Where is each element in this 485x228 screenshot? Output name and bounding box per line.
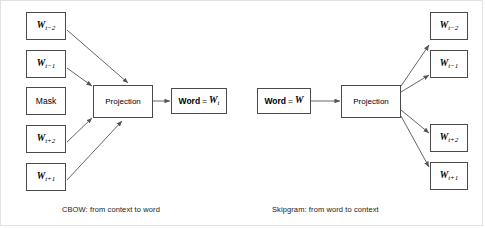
cbow-input-label-1: W xyxy=(37,21,45,31)
arrow-skip-out-4 xyxy=(401,116,429,167)
skipgram-output-label-2: W xyxy=(440,59,448,69)
arrow-skip-out-3 xyxy=(401,110,429,133)
cbow-input-box-5[interactable]: Wt+1 xyxy=(26,163,66,191)
skipgram-input-prefix: Word xyxy=(265,97,287,106)
cbow-input-sub-4: t+2 xyxy=(45,138,55,145)
skipgram-projection-label: Projection xyxy=(353,98,389,106)
skipgram-caption: Skipgram: from word to context xyxy=(272,205,379,214)
cbow-output-equals: = xyxy=(200,97,209,106)
cbow-input-sub-1: t−2 xyxy=(45,25,55,32)
skipgram-output-box-4[interactable]: Wt+1 xyxy=(430,162,468,190)
skipgram-output-arrows xyxy=(401,45,429,167)
cbow-input-sub-2: t−1 xyxy=(45,63,55,70)
cbow-caption: CBOW: from context to word xyxy=(62,205,160,214)
skipgram-output-label-1: W xyxy=(440,21,448,31)
skipgram-output-sub-3: t+2 xyxy=(448,137,458,144)
cbow-input-label-2: W xyxy=(37,59,45,69)
cbow-mask-label: Mask xyxy=(36,97,56,106)
arrow-cbow-in-2 xyxy=(67,68,92,86)
skipgram-input-box[interactable]: Word=W xyxy=(257,88,311,114)
skipgram-output-sub-2: t−1 xyxy=(448,63,458,70)
cbow-output-box[interactable]: Word=Wt xyxy=(171,88,227,114)
skipgram-output-box-3[interactable]: Wt+2 xyxy=(430,124,468,152)
cbow-output-var: W xyxy=(209,96,217,106)
cbow-output-prefix: Word xyxy=(179,97,201,106)
skipgram-output-box-1[interactable]: Wt−2 xyxy=(430,12,468,40)
skipgram-output-sub-1: t−2 xyxy=(448,25,458,32)
skipgram-projection-box[interactable]: Projection xyxy=(341,85,401,118)
arrow-layer xyxy=(0,0,485,228)
skipgram-input-equals: = xyxy=(286,97,295,106)
arrow-skip-out-2 xyxy=(401,75,429,92)
cbow-input-label-5: W xyxy=(37,172,45,182)
cbow-input-box-1[interactable]: Wt−2 xyxy=(26,12,66,40)
cbow-input-box-2[interactable]: Wt−1 xyxy=(26,50,66,78)
arrow-cbow-in-5 xyxy=(67,121,122,180)
arrow-cbow-in-1 xyxy=(67,30,128,83)
cbow-mask-box[interactable]: Mask xyxy=(26,87,66,115)
cbow-input-label-4: W xyxy=(37,134,45,144)
arrow-skip-out-1 xyxy=(401,45,429,86)
skipgram-output-box-2[interactable]: Wt−1 xyxy=(430,50,468,78)
arrow-cbow-in-4 xyxy=(67,118,92,142)
cbow-input-box-4[interactable]: Wt+2 xyxy=(26,125,66,153)
skipgram-output-label-3: W xyxy=(440,133,448,143)
cbow-projection-box[interactable]: Projection xyxy=(93,85,153,118)
skipgram-input-var: W xyxy=(295,96,303,106)
cbow-input-sub-5: t+1 xyxy=(45,176,55,183)
diagram-canvas: Wt−2 Wt−1 Mask Wt+2 Wt+1 Projection Word… xyxy=(0,0,485,228)
figure-border xyxy=(0,0,483,226)
cbow-projection-label: Projection xyxy=(105,98,141,106)
cbow-output-sub: t xyxy=(218,100,220,107)
skipgram-output-sub-4: t+1 xyxy=(448,175,458,182)
skipgram-output-label-4: W xyxy=(440,171,448,181)
